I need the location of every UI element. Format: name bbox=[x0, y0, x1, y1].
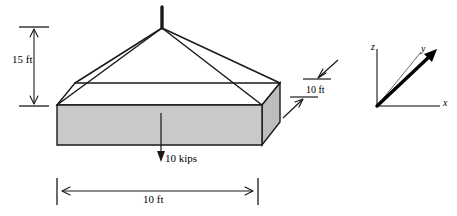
load-arrowhead bbox=[157, 151, 165, 162]
label-axis-z: z bbox=[371, 42, 375, 52]
suspended-slab-diagram bbox=[0, 0, 457, 216]
cable-back-left bbox=[75, 28, 162, 83]
depth-dim-arrow-upper-shaft bbox=[319, 60, 338, 77]
label-depth-10ft: 10 ft bbox=[306, 85, 325, 95]
coordinate-axes-group bbox=[377, 49, 440, 106]
height-dimension-15ft bbox=[19, 27, 49, 106]
label-axis-x: x bbox=[443, 98, 447, 108]
depth-dim-arrow-lower-shaft bbox=[283, 100, 302, 118]
label-height-15ft: 15 ft bbox=[12, 54, 32, 65]
label-axis-y: y bbox=[421, 44, 425, 54]
depth-dim-arrowhead-upper bbox=[318, 69, 326, 78]
resultant-vector-shaft bbox=[377, 56, 430, 106]
slab-front-face bbox=[57, 105, 262, 145]
label-load-10kips: 10 kips bbox=[165, 153, 197, 164]
label-width-10ft: 10 ft bbox=[143, 194, 163, 205]
cable-back-right bbox=[162, 28, 280, 83]
